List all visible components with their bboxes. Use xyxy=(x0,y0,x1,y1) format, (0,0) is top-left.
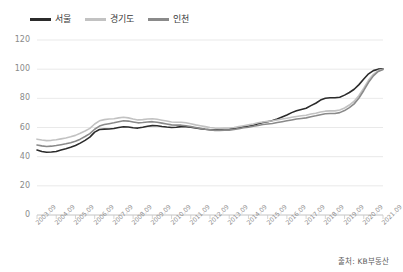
y-tick-label: 0 xyxy=(4,211,30,219)
legend-item-gyeonggi[interactable]: 경기도 xyxy=(85,14,134,24)
chart-series-layer xyxy=(37,69,383,152)
y-tick-label: 80 xyxy=(4,94,30,102)
y-tick-label: 120 xyxy=(4,36,30,44)
legend-label: 경기도 xyxy=(110,14,134,24)
source-note: 출처: KB부동산 xyxy=(338,255,389,266)
y-tick-label: 60 xyxy=(4,124,30,132)
legend-label: 서울 xyxy=(55,14,71,24)
y-tick-label: 100 xyxy=(4,65,30,73)
legend-label: 인천 xyxy=(173,14,189,24)
legend-item-seoul[interactable]: 서울 xyxy=(30,14,71,24)
y-tick-label: 40 xyxy=(4,153,30,161)
y-tick-label: 20 xyxy=(4,182,30,190)
legend-swatch-icon xyxy=(85,18,106,21)
series-line-인천 xyxy=(37,69,383,146)
chart-legend: 서울 경기도 인천 xyxy=(30,14,189,24)
legend-swatch-icon xyxy=(30,18,51,21)
legend-item-incheon[interactable]: 인천 xyxy=(148,14,189,24)
legend-swatch-icon xyxy=(148,18,169,21)
